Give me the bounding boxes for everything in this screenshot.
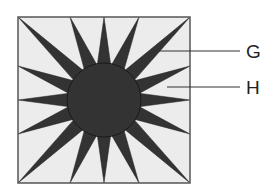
label-h: H xyxy=(246,77,260,98)
label-g: G xyxy=(246,41,261,62)
sunburst-diagram: G H xyxy=(0,0,277,195)
center-circle xyxy=(67,63,141,137)
